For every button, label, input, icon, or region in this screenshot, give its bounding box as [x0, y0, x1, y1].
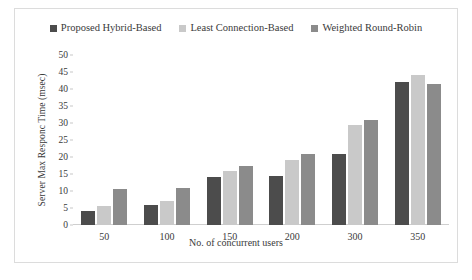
- bar[interactable]: [97, 206, 111, 225]
- bar[interactable]: [269, 176, 283, 225]
- bar[interactable]: [113, 189, 127, 225]
- bar[interactable]: [411, 75, 425, 225]
- bar[interactable]: [285, 160, 299, 225]
- legend-swatch-icon: [50, 25, 57, 32]
- y-axis-tick-label: 45: [59, 67, 69, 77]
- bar-groups: 50100150200300350: [73, 55, 449, 225]
- bar[interactable]: [223, 171, 237, 225]
- bar[interactable]: [301, 154, 315, 225]
- legend-label: Weighted Round-Robin: [322, 23, 422, 34]
- y-axis-tick-label: 30: [59, 118, 69, 128]
- legend-item[interactable]: Weighted Round-Robin: [311, 23, 422, 34]
- legend-label: Least Connection-Based: [190, 23, 293, 34]
- bar-group: 100: [136, 55, 199, 225]
- bar[interactable]: [395, 82, 409, 225]
- plot-area: Server Max Responc Time (msec) 504540353…: [73, 55, 449, 225]
- bar-group: 150: [198, 55, 261, 225]
- legend-item[interactable]: Proposed Hybrid-Based: [50, 23, 162, 34]
- y-axis-tick-label: 50: [59, 50, 69, 60]
- legend-item[interactable]: Least Connection-Based: [179, 23, 293, 34]
- y-axis-tick-label: 15: [59, 169, 69, 179]
- y-axis-tick-label: 35: [59, 101, 69, 111]
- y-axis-tick-label: 0: [63, 220, 68, 230]
- y-axis-tick-label: 40: [59, 84, 69, 94]
- chart-legend: Proposed Hybrid-BasedLeast Connection-Ba…: [15, 23, 457, 34]
- y-axis-tick-label: 25: [59, 135, 69, 145]
- legend-swatch-icon: [311, 25, 318, 32]
- chart-figure: Proposed Hybrid-BasedLeast Connection-Ba…: [14, 8, 458, 263]
- bar[interactable]: [81, 211, 95, 225]
- bar-group: 300: [324, 55, 387, 225]
- bar[interactable]: [176, 188, 190, 225]
- bar-group: 200: [261, 55, 324, 225]
- bar[interactable]: [364, 120, 378, 225]
- y-axis-tick-label: 5: [63, 203, 68, 213]
- bar-group: 50: [73, 55, 136, 225]
- bar-group: 350: [386, 55, 449, 225]
- y-axis-tick-label: 20: [59, 152, 69, 162]
- bar[interactable]: [207, 177, 221, 225]
- legend-swatch-icon: [179, 25, 186, 32]
- x-axis-title: No. of concurrent users: [15, 237, 457, 248]
- bar[interactable]: [160, 201, 174, 225]
- bar[interactable]: [332, 154, 346, 225]
- y-axis-title: Server Max Responc Time (msec): [37, 55, 51, 225]
- legend-label: Proposed Hybrid-Based: [61, 23, 162, 34]
- bar[interactable]: [348, 125, 362, 225]
- bar[interactable]: [239, 166, 253, 226]
- bar[interactable]: [144, 205, 158, 225]
- y-axis-tick-label: 10: [59, 186, 69, 196]
- bar[interactable]: [427, 84, 441, 225]
